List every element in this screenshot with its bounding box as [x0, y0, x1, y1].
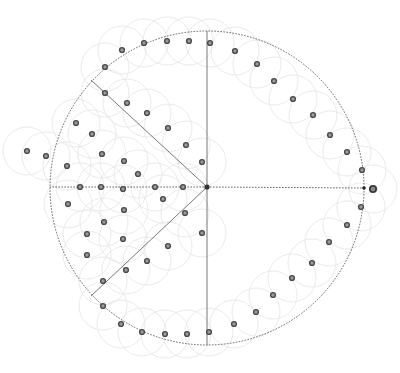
- sample-point: [99, 185, 104, 190]
- sample-point: [345, 150, 350, 155]
- sample-point: [208, 41, 213, 46]
- sample-point: [90, 132, 95, 137]
- sample-point: [254, 310, 259, 315]
- sample-point: [327, 240, 332, 245]
- sample-point: [184, 143, 189, 148]
- sample-point: [166, 126, 171, 131]
- sample-point: [290, 276, 295, 281]
- outside-point: [370, 186, 376, 192]
- sample-point: [74, 121, 79, 126]
- sample-point: [85, 253, 90, 258]
- sample-point: [122, 159, 127, 164]
- sample-point: [25, 149, 30, 154]
- sample-point: [311, 113, 316, 118]
- sample-point: [103, 65, 108, 70]
- sample-point: [145, 259, 150, 264]
- sample-point: [200, 160, 205, 165]
- sample-point: [255, 62, 260, 67]
- sample-point: [310, 261, 315, 266]
- sample-point: [65, 164, 70, 169]
- sample-point: [207, 330, 212, 335]
- sample-point: [187, 39, 192, 44]
- sample-point: [125, 101, 130, 106]
- sample-point: [145, 111, 150, 116]
- sample-point: [233, 49, 238, 54]
- sample-point: [163, 332, 168, 337]
- sample-point: [101, 279, 106, 284]
- sample-point: [100, 152, 105, 157]
- sample-point: [272, 79, 277, 84]
- sample-point: [360, 168, 365, 173]
- sample-point: [153, 185, 158, 190]
- sample-point: [102, 220, 107, 225]
- sample-point: [166, 244, 171, 249]
- sample-point: [119, 322, 124, 327]
- sample-point: [200, 231, 205, 236]
- sample-point: [183, 211, 188, 216]
- sample-point: [103, 91, 108, 96]
- sample-point: [78, 185, 83, 190]
- radius-end-point: [362, 186, 366, 190]
- sample-point: [124, 268, 129, 273]
- sample-point: [291, 97, 296, 102]
- sample-point: [345, 223, 350, 228]
- sample-point: [142, 41, 147, 46]
- sample-point: [161, 197, 166, 202]
- sample-point: [136, 172, 141, 177]
- disk-center-point: [204, 184, 209, 189]
- sample-point: [121, 237, 126, 242]
- sample-point: [44, 154, 49, 159]
- sample-point: [185, 332, 190, 337]
- sample-point: [85, 232, 90, 237]
- sample-point: [120, 48, 125, 53]
- sample-point: [328, 133, 333, 138]
- sample-point: [181, 185, 186, 190]
- radial-line-right: [207, 187, 364, 188]
- sample-point: [66, 202, 71, 207]
- sample-point: [122, 208, 127, 213]
- sample-point: [271, 293, 276, 298]
- sector-disk-diagram: [0, 0, 400, 373]
- sample-point: [140, 330, 145, 335]
- sample-point: [101, 304, 106, 309]
- sample-point: [359, 205, 364, 210]
- sample-point: [165, 39, 170, 44]
- sample-point: [232, 322, 237, 327]
- radial-line-upper-left: [91, 80, 207, 187]
- sample-point: [121, 187, 126, 192]
- radial-line-lower-left: [91, 187, 207, 296]
- point-halo-circles: [3, 17, 397, 358]
